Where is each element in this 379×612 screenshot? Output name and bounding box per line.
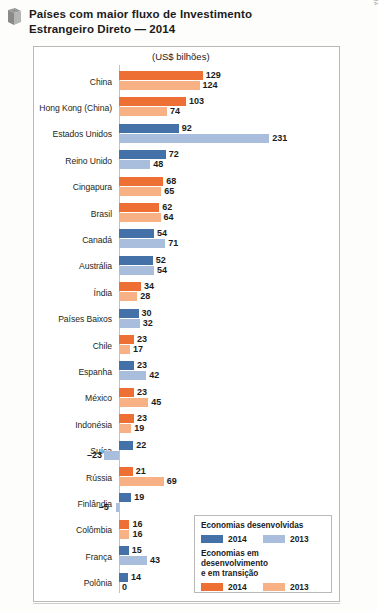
bar-2014 [119,282,141,291]
bar-track: 124 [119,81,341,91]
bar-track: 54 [119,229,341,239]
bar-track: 32 [119,319,341,329]
bar-track: 103 [119,97,341,107]
legend-label-developed-2014: 2014 [228,534,247,544]
bar-group: 3428 [119,278,341,307]
bar-track: 74 [119,107,341,117]
flag-bookmark-icon [8,8,21,28]
bar-2013 [119,398,148,407]
legend-swatch-emerging-2013 [263,583,285,591]
legend-group-emerging-title-line-1: Economias em desenvolvimento [201,549,268,568]
bar-2014 [119,441,133,450]
bar-track: 23 [119,414,341,424]
bar-track: 62 [119,203,341,213]
chart-frame: (US$ bilhões) China129124Hong Kong (Chin… [33,46,340,602]
units-caption: (US$ bilhões) [152,51,210,62]
bar-value-label: 23 [137,360,147,371]
bar-value-label: 103 [189,96,204,107]
category-label: Estados Unidos [34,120,112,149]
bar-track: 45 [119,398,341,408]
category-label: França [34,542,112,571]
bar-track: 71 [119,239,341,249]
bar-value-label: 23 [137,387,147,398]
legend-group-developed-items: 2014 2013 [201,534,325,544]
bar-group: 2317 [119,331,341,360]
chart-row: Suíça22–23 [34,437,341,466]
bar-2014 [119,229,154,238]
bar-value-label: 15 [132,545,142,556]
bar-track: 69 [119,477,341,487]
bar-track: 23 [119,335,341,345]
chart-row: Chile2317 [34,331,341,360]
bar-track: 48 [119,160,341,170]
bar-value-label: 14 [131,572,141,583]
category-label: Chile [34,331,112,360]
bar-value-label: 32 [143,318,153,329]
bar-value-label: 71 [168,238,178,249]
chart-row: Reino Unido7248 [34,146,341,175]
bar-2013 [119,239,165,248]
bar-value-label: 65 [164,186,174,197]
bar-track: 28 [119,292,341,302]
bar-2014 [119,520,129,529]
chart-row: Brasil6264 [34,199,341,228]
bar-2014 [119,361,134,370]
chart-row: México2345 [34,384,341,413]
bar-group: 92231 [119,120,341,149]
bar-group: 22–23 [119,437,341,466]
page-title-line-2: Estrangeiro Direto — 2014 [29,22,252,37]
bar-track: 64 [119,213,341,223]
chart-row: Canadá5471 [34,225,341,254]
bar-2013 [119,187,161,196]
chart-legend: Economias desenvolvidas 2014 2013 Econom… [194,515,332,593]
bar-value-label: 21 [136,466,146,477]
bar-2013 [119,160,150,169]
legend-group-emerging-title: Economias em desenvolvimento e em transi… [201,549,325,579]
bar-2014 [119,203,159,212]
legend-swatch-emerging-2014 [201,583,223,591]
credit-rail: FERNANDO JOSÉ FERREIRA [345,0,377,612]
category-label: Indonésia [34,410,112,439]
chart-row: Países Baixos3032 [34,305,341,334]
bar-value-label: 42 [149,370,159,381]
chart-row: China129124 [34,67,341,96]
category-label: Rússia [34,463,112,492]
category-label: Cingapura [34,173,112,202]
legend-swatch-developed-2013 [263,535,285,543]
bar-2013 [119,556,147,565]
bar-value-label: 72 [169,149,179,160]
bar-track: 21 [119,467,341,477]
bar-value-label: 16 [132,529,142,540]
chart-row: Rússia2169 [34,463,341,492]
legend-label-emerging-2013: 2013 [290,582,309,592]
legend-swatch-developed-2014 [201,535,223,543]
bar-track: 19 [119,493,341,503]
bar-value-label: 22 [136,440,146,451]
bar-track: 19 [119,424,341,434]
legend-label-developed-2013: 2013 [290,534,309,544]
bar-track: 42 [119,371,341,381]
bar-2014 [119,493,131,502]
page-title-line-1: Países com maior fluxo de Investimento [29,7,252,22]
bar-value-label: 48 [153,159,163,170]
category-label: Austrália [34,252,112,281]
bar-2013 [119,345,130,354]
bar-2014 [119,309,139,318]
bar-2013 [119,213,161,222]
bar-group: 6264 [119,199,341,228]
bar-2013 [119,530,129,539]
bar-value-label: –5 [99,502,109,513]
bar-group: 2169 [119,463,341,492]
bar-value-label: 231 [272,133,287,144]
bar-2013 [119,81,200,90]
chart-row: Austrália5254 [34,252,341,281]
bar-track: 92 [119,124,341,134]
bar-2014 [119,124,179,133]
bar-2013 [104,451,119,460]
bar-value-label: 43 [150,555,160,566]
legend-item-emerging-2014: 2014 [201,582,263,592]
chart-row: Hong Kong (China)10374 [34,93,341,122]
category-label: Espanha [34,357,112,386]
bar-track: 22 [119,441,341,451]
